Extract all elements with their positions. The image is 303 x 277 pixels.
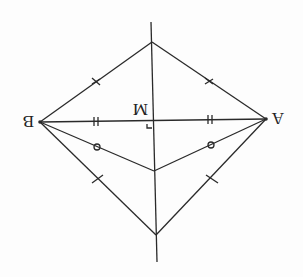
cross-mark-b-top (92, 78, 100, 85)
segment-a-bottom (156, 119, 266, 235)
label-m: M (133, 100, 148, 119)
geometry-diagram: B A M (0, 0, 303, 277)
diagram-canvas: B A M (0, 0, 303, 277)
perpendicular-bisector (151, 22, 157, 262)
label-a: A (271, 109, 284, 128)
cross-mark-a-top (205, 78, 213, 84)
point-a (264, 117, 268, 121)
segment-a-mid (154, 119, 266, 171)
label-b: B (23, 112, 34, 131)
segment-b-mid (40, 122, 154, 171)
point-b (38, 120, 42, 124)
right-angle-mark (147, 124, 152, 128)
